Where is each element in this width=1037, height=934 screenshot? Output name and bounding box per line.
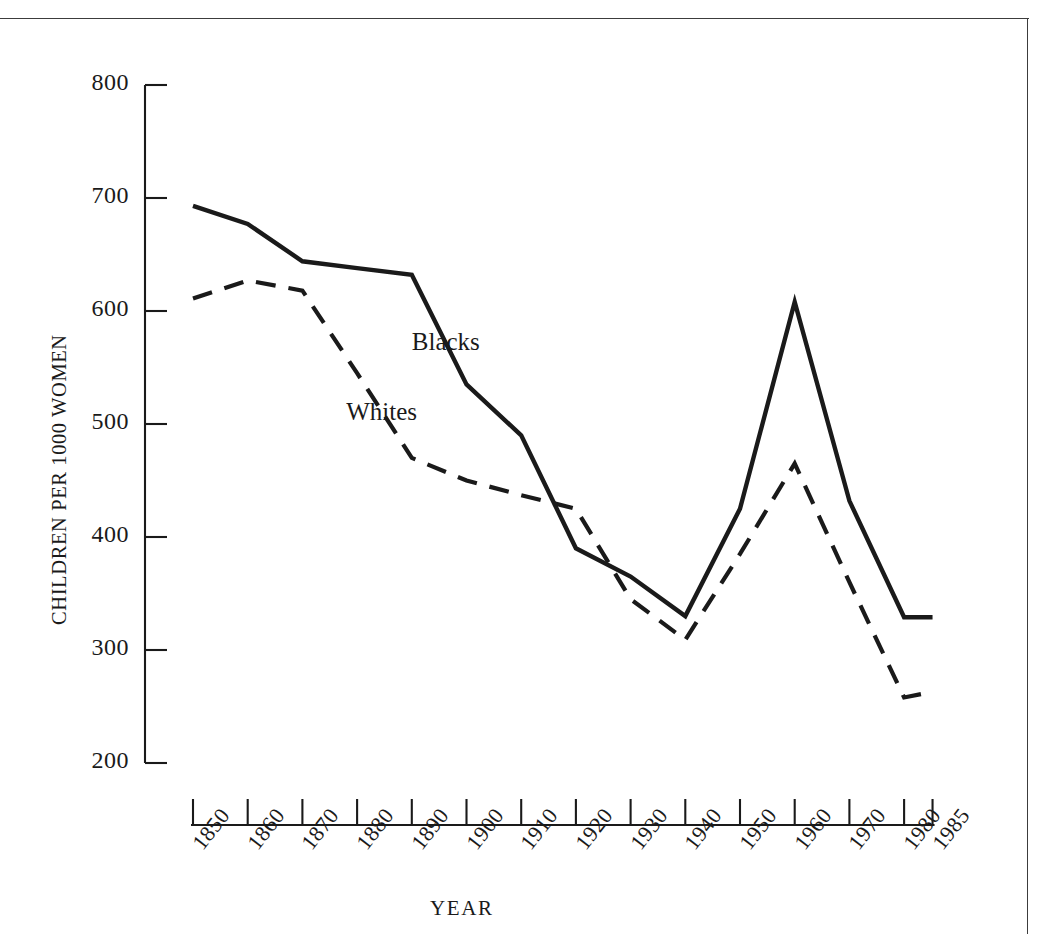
chart-axes: [145, 85, 935, 825]
y-axis-tick-label: 300: [59, 634, 129, 661]
y-axis-tick-label: 400: [59, 521, 129, 548]
line-chart: CHILDREN PER 1000 WOMEN 8007006005004003…: [0, 0, 1037, 934]
chart-canvas: [0, 0, 1037, 934]
scanned-page: CHILDREN PER 1000 WOMEN 8007006005004003…: [0, 0, 1037, 934]
y-axis-tick-label: 800: [59, 69, 129, 96]
y-axis-tick-label: 700: [59, 182, 129, 209]
series-line-blacks: [193, 206, 933, 617]
y-axis-tick-label: 600: [59, 295, 129, 322]
y-axis-tick-label: 200: [59, 747, 129, 774]
x-axis-title: YEAR: [430, 896, 494, 921]
chart-series: [193, 206, 933, 698]
series-label-blacks: Blacks: [412, 328, 480, 356]
series-line-whites: [193, 280, 933, 697]
y-axis-title-text: CHILDREN PER 1000 WOMEN: [48, 334, 71, 625]
y-axis-tick-label: 500: [59, 408, 129, 435]
series-label-whites: Whites: [346, 398, 417, 426]
